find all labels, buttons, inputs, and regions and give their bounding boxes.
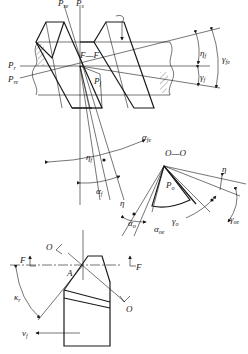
label-point-a: A	[66, 268, 73, 278]
edge-extension	[38, 265, 83, 320]
label-gamma-o: γo	[172, 216, 179, 227]
pre-line	[20, 28, 220, 78]
label-gamma-f: γf	[200, 72, 207, 83]
kappa-r-arc	[16, 268, 40, 318]
section-line-1	[80, 66, 100, 200]
middle-view: αfe ηf αf	[48, 132, 151, 197]
section-line-2	[80, 66, 110, 200]
oo-line	[68, 253, 125, 302]
label-pre: Pre	[7, 74, 19, 85]
label-eta-left: η	[120, 198, 125, 208]
label-o-top: O	[46, 242, 53, 252]
label-pr: Pr	[7, 60, 17, 71]
gamma-f-arc	[198, 68, 199, 86]
top-view: Pse Ps Pr Pre F—F Pf ηf γf γfe	[7, 0, 230, 205]
alpha-f-arc	[80, 176, 120, 183]
bottom-view: O O F F A κr vf	[10, 230, 142, 346]
eta-f-arc	[196, 33, 199, 64]
rotation-arrow-icon	[116, 15, 124, 40]
shaft-right-hatch	[160, 72, 168, 93]
label-alpha-f: αf	[96, 186, 104, 197]
label-kappa-r: κr	[14, 292, 21, 303]
alpha-fe-arc	[48, 140, 145, 162]
label-f-left: F	[19, 255, 26, 265]
label-alpha-fe: αfe	[142, 132, 151, 143]
section-oo-view: O—O Po η η αo αoe γo γoe	[120, 148, 246, 236]
label-eta-f: ηf	[200, 48, 207, 59]
diagram-canvas: Pse Ps Pr Pre F—F Pf ηf γf γfe αfe ηf αf…	[0, 0, 248, 354]
label-o-bottom: O	[126, 304, 133, 314]
oo-point-left	[132, 212, 135, 215]
label-f-right: F	[135, 262, 142, 272]
label-eta-f-mid: ηf	[86, 152, 93, 163]
oo-ray-2	[134, 166, 164, 236]
label-eta-right: η	[222, 164, 227, 174]
label-ps: Ps	[75, 0, 85, 9]
gamma-fe-arc	[212, 30, 218, 88]
label-alpha-oe: αoe	[154, 224, 165, 235]
shaft-right-break	[169, 42, 174, 95]
label-gamma-fe: γfe	[222, 54, 230, 65]
o-top-marker-icon	[56, 244, 62, 254]
pse-line	[64, 5, 124, 200]
label-po: Po	[165, 180, 175, 191]
label-vf: vf	[22, 328, 29, 339]
label-pse: Pse	[57, 0, 69, 9]
oo-point-right	[210, 198, 213, 201]
label-pf: Pf	[93, 76, 103, 87]
eta-f-point	[102, 158, 105, 161]
label-alpha-o: αo	[128, 218, 136, 229]
label-section-oo: O—O	[165, 148, 187, 158]
label-gamma-oe: γoe	[230, 214, 240, 225]
label-section-ff: F—F	[79, 50, 100, 60]
